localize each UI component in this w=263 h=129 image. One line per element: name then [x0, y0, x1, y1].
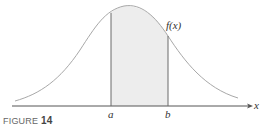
figure-canvas: f(x) x a b [0, 0, 263, 129]
upper-bound-label: b [165, 108, 171, 120]
caption-prefix: FIGURE [3, 116, 38, 126]
lower-bound-label: a [108, 108, 114, 120]
caption-number: 14 [41, 115, 53, 126]
figure-caption: FIGURE 14 [3, 115, 52, 126]
shaded-area [111, 6, 168, 106]
function-label: f(x) [166, 19, 182, 32]
x-axis-label: x [253, 99, 259, 111]
